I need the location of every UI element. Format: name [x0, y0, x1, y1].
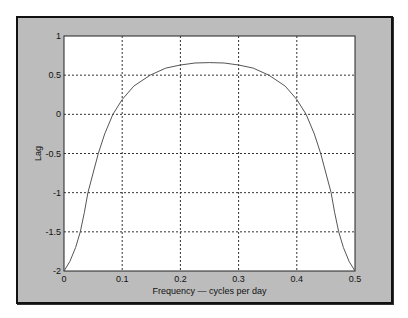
x-axis-ticks: 00.10.20.30.40.5: [61, 274, 361, 284]
y-tick-label: 1: [56, 31, 61, 41]
x-axis-label: Frequency — cycles per day: [152, 286, 267, 296]
x-tick-label: 0.5: [349, 274, 362, 284]
x-tick-label: 0.3: [232, 274, 245, 284]
y-tick-label: -2: [53, 266, 61, 276]
y-axis-label: Lag: [33, 146, 43, 161]
line-chart: 10.50-0.5-1-1.5-2 00.10.20.30.40.5 Frequ…: [0, 0, 408, 318]
x-tick-label: 0: [61, 274, 66, 284]
y-tick-label: -1: [53, 188, 61, 198]
x-tick-label: 0.2: [174, 274, 187, 284]
x-tick-label: 0.4: [291, 274, 304, 284]
x-tick-label: 0.1: [116, 274, 129, 284]
y-tick-label: 0.5: [48, 70, 61, 80]
y-tick-label: 0: [56, 109, 61, 119]
y-tick-label: -1.5: [45, 227, 61, 237]
y-tick-label: -0.5: [45, 149, 61, 159]
y-axis-ticks: 10.50-0.5-1-1.5-2: [45, 31, 61, 276]
